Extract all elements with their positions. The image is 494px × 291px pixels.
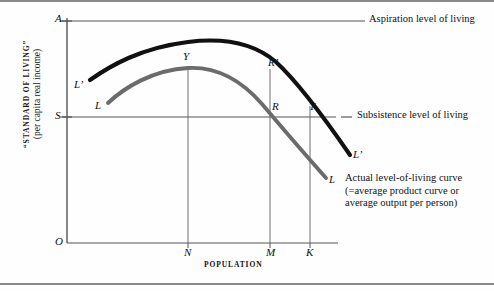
x-tick-label-m: M bbox=[266, 247, 275, 258]
curve-label-upper-right: L’ bbox=[353, 149, 362, 160]
curve-label-lower-left: L bbox=[95, 100, 101, 111]
y-tick-label-s: S bbox=[55, 110, 61, 121]
diagram-canvas bbox=[0, 0, 494, 291]
y-axis-label-line2: (per capita real income) bbox=[32, 14, 42, 174]
y-axis-label-line1: “STANDARD OF LIVING” bbox=[22, 14, 31, 174]
x-tick-label-k: K bbox=[306, 247, 313, 258]
annotation-line-2: (=average product curve or bbox=[345, 185, 462, 198]
x-axis-label: POPULATION bbox=[204, 261, 262, 269]
point-label-t: T bbox=[309, 101, 315, 112]
point-label-r: R bbox=[272, 101, 279, 112]
curve-label-lower-right: L bbox=[329, 174, 335, 185]
y-axis-label: “STANDARD OF LIVING” (per capita real in… bbox=[22, 14, 42, 174]
annotation-line-1: Actual level-of-living curve bbox=[345, 172, 462, 185]
aspiration-level-caption: Aspiration level of living bbox=[369, 14, 475, 25]
point-label-r-prime: R’ bbox=[268, 57, 278, 68]
actual-level-of-living-curve bbox=[108, 68, 326, 178]
potential-level-of-living-curve bbox=[90, 41, 350, 155]
curve-label-upper-left: L’ bbox=[74, 79, 83, 90]
y-tick-label-a: A bbox=[55, 13, 62, 24]
figure-container: A S O N M K L’ L’ L L Y R’ R T Aspiratio… bbox=[0, 0, 494, 291]
origin-label: O bbox=[55, 236, 63, 247]
x-tick-label-n: N bbox=[184, 247, 191, 258]
point-label-y: Y bbox=[183, 51, 189, 62]
actual-curve-annotation: Actual level-of-living curve (=average p… bbox=[345, 172, 462, 210]
annotation-line-3: average output per person) bbox=[345, 197, 462, 210]
subsistence-level-caption: Subsistence level of living bbox=[357, 110, 468, 121]
